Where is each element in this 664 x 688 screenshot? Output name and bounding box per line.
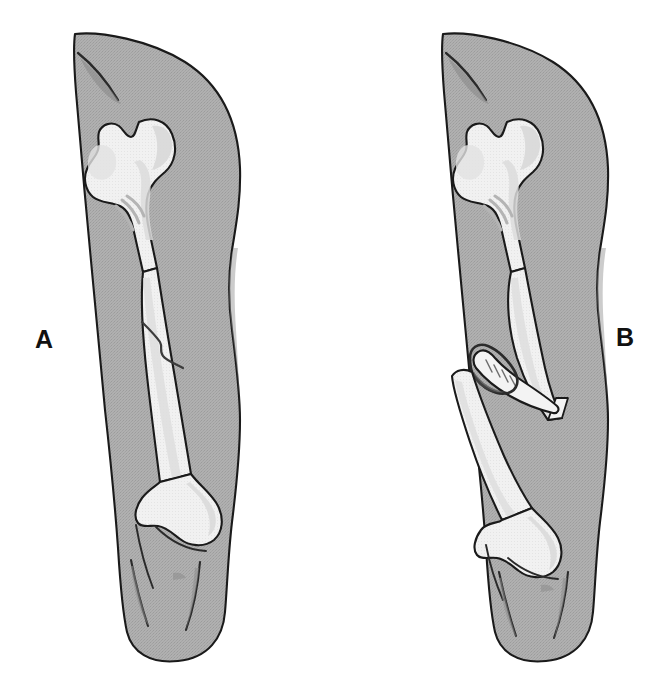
panel-a-trochanter-shade — [88, 145, 116, 180]
cropped-caption-fragment — [8, 676, 248, 688]
figure-root: A B — [0, 0, 664, 688]
panel-label-a: A — [35, 327, 53, 352]
panel-b-trochanter-shade — [456, 145, 484, 180]
fracture-illustration — [0, 0, 664, 688]
panel-a — [74, 33, 240, 661]
panel-label-b: B — [616, 325, 634, 350]
panel-b — [442, 33, 608, 661]
